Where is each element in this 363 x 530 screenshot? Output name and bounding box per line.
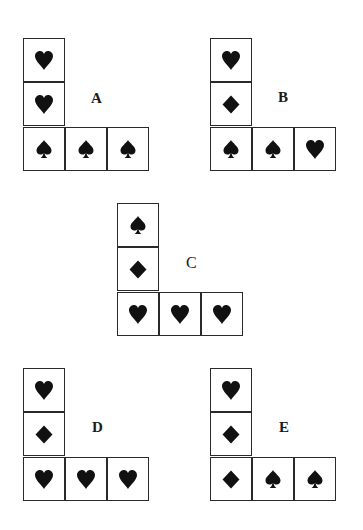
cell-row-3 (107, 127, 149, 171)
cell-col-2 (23, 412, 65, 456)
cell-row-2 (159, 292, 201, 336)
spade-icon (306, 469, 324, 489)
cell-col-2 (210, 82, 252, 126)
heart-icon (128, 304, 148, 325)
figure-label: E (279, 420, 289, 435)
heart-icon (170, 304, 190, 325)
heart-icon (305, 139, 325, 160)
spade-icon (77, 139, 95, 159)
spade-icon (264, 469, 282, 489)
figure-label: A (91, 91, 102, 106)
diamond-icon (222, 95, 240, 114)
cell-corner (117, 292, 159, 336)
cell-corner (23, 127, 65, 171)
cell-col-1 (23, 368, 65, 412)
figure-label: B (278, 90, 288, 105)
figure-a: A (23, 38, 153, 173)
heart-icon (34, 50, 54, 71)
cell-row-3 (294, 457, 336, 501)
cell-col-2 (117, 247, 159, 291)
cell-corner (23, 457, 65, 501)
figure-e: E (210, 368, 340, 503)
figure-b: B (210, 38, 340, 173)
cell-row-3 (294, 127, 336, 171)
heart-icon (34, 469, 54, 490)
heart-icon (221, 50, 241, 71)
cell-row-2 (252, 127, 294, 171)
diamond-icon (129, 260, 147, 279)
heart-icon (76, 469, 96, 490)
cell-row-2 (65, 127, 107, 171)
cell-row-2 (65, 457, 107, 501)
figure-label: D (92, 420, 103, 435)
spade-icon (35, 139, 53, 159)
cell-col-1 (117, 203, 159, 247)
figure-d: D (23, 368, 153, 503)
cell-row-3 (107, 457, 149, 501)
spade-icon (264, 139, 282, 159)
cell-col-1 (23, 38, 65, 82)
figure-c: C (117, 203, 247, 338)
cell-corner (210, 127, 252, 171)
heart-icon (34, 380, 54, 401)
cell-col-1 (210, 38, 252, 82)
diamond-icon (222, 425, 240, 444)
spade-icon (222, 139, 240, 159)
heart-icon (34, 94, 54, 115)
diamond-icon (222, 470, 240, 489)
cell-corner (210, 457, 252, 501)
cell-row-2 (252, 457, 294, 501)
diamond-icon (35, 425, 53, 444)
cell-col-1 (210, 368, 252, 412)
cell-col-2 (23, 82, 65, 126)
heart-icon (118, 469, 138, 490)
figure-label: C (186, 255, 197, 271)
spade-icon (119, 139, 137, 159)
cell-row-3 (201, 292, 243, 336)
spade-icon (129, 215, 147, 235)
heart-icon (221, 380, 241, 401)
heart-icon (212, 304, 232, 325)
cell-col-2 (210, 412, 252, 456)
